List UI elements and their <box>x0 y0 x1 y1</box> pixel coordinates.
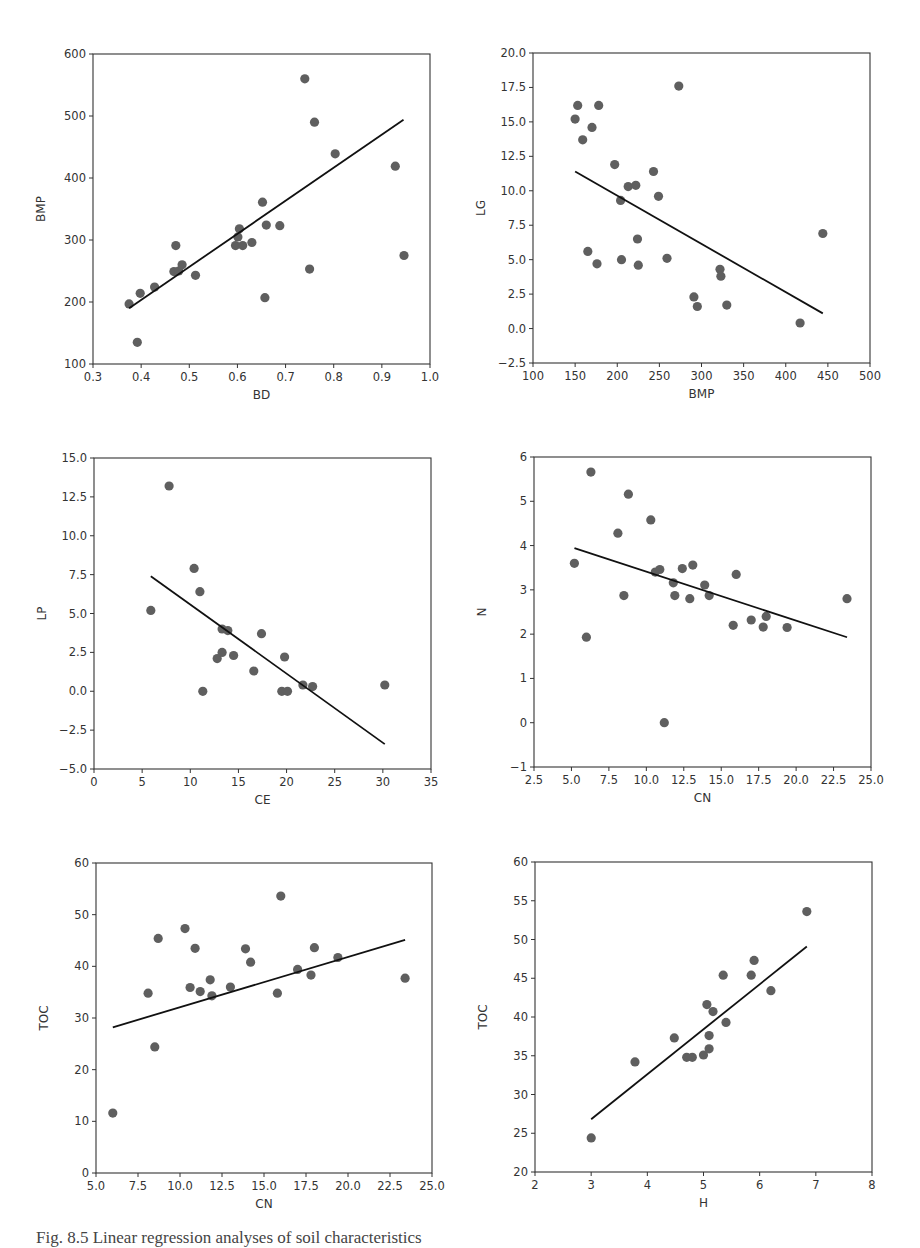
y-axis-label: BMP <box>34 196 48 222</box>
data-point <box>238 241 247 250</box>
x-tick-label: 10 <box>183 775 198 789</box>
data-point <box>196 987 205 996</box>
x-tick-label: 300 <box>691 369 713 383</box>
data-point <box>191 944 200 953</box>
axes-frame <box>533 53 870 363</box>
data-point <box>633 234 642 243</box>
x-axis: 0.30.40.50.60.70.80.91.0BD <box>84 364 439 402</box>
x-tick-label: 35 <box>424 775 439 789</box>
y-axis-label: LG <box>474 200 488 216</box>
x-tick-label: 25.0 <box>858 773 884 787</box>
data-point <box>186 983 195 992</box>
data-point <box>190 564 199 573</box>
data-point <box>280 652 289 661</box>
y-tick-label: 2 <box>520 627 527 641</box>
data-point <box>747 971 756 980</box>
data-point <box>571 115 580 124</box>
data-point <box>705 1031 714 1040</box>
y-axis-label: TOC <box>37 1005 51 1031</box>
y-tick-label: 7.5 <box>69 568 87 582</box>
axes-frame <box>94 458 431 769</box>
y-axis: −10123456N <box>475 450 534 774</box>
x-tick-label: 7.5 <box>600 773 618 787</box>
x-tick-label: 22.5 <box>377 1179 403 1193</box>
y-tick-label: 12.5 <box>61 490 87 504</box>
data-point <box>631 181 640 190</box>
scatter-ce-vs-lp: 05101520253035CE−5.0−2.50.02.55.07.510.0… <box>32 448 451 815</box>
y-axis: −2.50.02.55.07.510.012.515.017.520.0LG <box>474 46 533 370</box>
data-point <box>150 1042 159 1051</box>
data-point <box>401 974 410 983</box>
data-point <box>108 1109 117 1118</box>
regression-line <box>574 548 847 637</box>
x-tick-label: 7 <box>812 1178 819 1192</box>
x-tick-label: 5 <box>138 775 145 789</box>
data-point <box>654 192 663 201</box>
data-point <box>594 101 603 110</box>
y-tick-label: 1 <box>520 671 527 685</box>
x-tick-label: 0.3 <box>84 370 102 384</box>
y-tick-label: 5 <box>520 494 527 508</box>
y-tick-label: 20 <box>74 1063 89 1077</box>
data-point <box>662 254 671 263</box>
y-tick-label: 0 <box>520 716 527 730</box>
data-point <box>218 648 227 657</box>
data-point <box>630 1057 639 1066</box>
x-axis: 2.55.07.510.012.515.017.520.022.525.0CN <box>525 767 884 805</box>
data-point <box>646 515 655 524</box>
y-tick-label: 200 <box>64 295 86 309</box>
y-tick-label: 15.0 <box>61 451 87 465</box>
x-tick-label: 10.0 <box>167 1179 193 1193</box>
y-tick-label: 60 <box>74 856 89 870</box>
data-point <box>206 975 215 984</box>
chart-svg: 05101520253035CE−5.0−2.50.02.55.07.510.0… <box>32 448 451 815</box>
y-tick-label: 25 <box>513 1126 528 1140</box>
data-point <box>688 1053 697 1062</box>
x-tick-label: 3 <box>588 1178 595 1192</box>
data-point <box>732 570 741 579</box>
x-tick-label: 5.0 <box>87 1179 105 1193</box>
x-tick-label: 7.5 <box>129 1179 147 1193</box>
data-point <box>275 221 284 230</box>
x-tick-label: 25 <box>327 775 342 789</box>
x-tick-label: 20 <box>279 775 294 789</box>
x-tick-label: 15 <box>231 775 246 789</box>
y-tick-label: 7.5 <box>508 218 526 232</box>
x-tick-label: 17.5 <box>746 773 772 787</box>
y-tick-label: 40 <box>74 959 89 973</box>
data-point <box>842 594 851 603</box>
scatter-cn-vs-toc: 5.07.510.012.515.017.520.022.525.0CN0102… <box>34 853 452 1219</box>
y-axis-label: LP <box>35 607 49 621</box>
data-point <box>610 160 619 169</box>
y-tick-label: 55 <box>513 894 528 908</box>
y-tick-label: 2.5 <box>508 287 526 301</box>
x-axis: 2345678H <box>531 1172 875 1210</box>
x-tick-label: 8 <box>868 1178 875 1192</box>
data-point <box>705 1044 714 1053</box>
y-tick-label: 17.5 <box>500 80 526 94</box>
data-point <box>655 565 664 574</box>
x-axis-label: CN <box>694 791 711 805</box>
x-tick-label: 1.0 <box>421 370 439 384</box>
x-tick-label: 0.7 <box>276 370 294 384</box>
data-point <box>391 162 400 171</box>
y-tick-label: 45 <box>513 971 528 985</box>
x-tick-label: 400 <box>775 369 797 383</box>
y-axis-label: N <box>475 608 489 617</box>
x-axis-label: CE <box>255 793 271 807</box>
y-tick-label: −2.5 <box>59 723 87 737</box>
x-tick-label: 350 <box>733 369 755 383</box>
data-point <box>674 82 683 91</box>
data-point <box>617 255 626 264</box>
x-tick-label: 0.5 <box>180 370 198 384</box>
data-point <box>257 629 266 638</box>
scatter-h-vs-toc: 2345678H202530354045505560TOC <box>473 852 892 1218</box>
data-point <box>171 241 180 250</box>
data-point <box>700 580 709 589</box>
data-point <box>310 943 319 952</box>
x-axis-label: BD <box>253 388 270 402</box>
regression-line <box>591 946 807 1119</box>
x-tick-label: 450 <box>817 369 839 383</box>
x-axis: 05101520253035CE <box>90 769 438 807</box>
y-axis: 100200300400500600BMP <box>34 47 93 371</box>
